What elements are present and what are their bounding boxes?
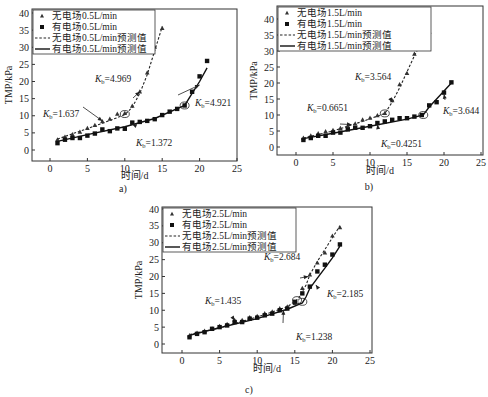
no-field-data-point (160, 26, 165, 30)
kb-annotation-c-2: Kb=1.435 (204, 296, 242, 307)
y-tick-label: 35 (149, 220, 159, 231)
field-data-point (308, 284, 312, 288)
field-data-point (123, 127, 127, 131)
field-data-point (315, 269, 319, 273)
field-data-point (240, 320, 244, 324)
y-tick-label: 40 (19, 8, 29, 19)
y-tick-label: 10 (264, 110, 274, 121)
arrowhead-icon (98, 117, 103, 121)
field-data-point (145, 119, 149, 123)
chart-3: 05101520250510152025303540时间/dTMP/kPac)K… (133, 204, 375, 397)
no-field-data-point (93, 123, 98, 127)
legend-entry: 无电场2.5L/min (182, 208, 247, 219)
x-tick-label: 15 (402, 157, 412, 168)
field-data-point (225, 323, 229, 327)
y-tick-label: 0 (154, 339, 159, 350)
field-data-point (383, 119, 387, 123)
y-tick-label: 0 (269, 142, 274, 153)
legend-entry: 有电场2.5L/min预测值 (182, 241, 277, 252)
field-data-point (278, 308, 282, 312)
x-tick-label: 20 (195, 163, 205, 174)
field-data-point (167, 109, 171, 113)
field-data-point (85, 133, 89, 137)
no-field-data-point (338, 225, 343, 229)
y-tick-label: 25 (264, 62, 274, 73)
field-data-point (375, 121, 379, 125)
field-data-point (346, 127, 350, 131)
field-data-point (190, 90, 194, 94)
x-tick-label: 25 (232, 163, 242, 174)
arrowhead-icon (316, 285, 320, 290)
y-tick-label: 20 (19, 76, 29, 87)
x-tick-label: 15 (157, 163, 167, 174)
field-data-point (368, 124, 372, 128)
y-tick-label: 30 (19, 42, 29, 53)
legend-entry: 有电场1.5L/min预测值 (297, 40, 392, 51)
chart-2: 05101520250510152025303540时间/dTMP/kPab)K… (248, 6, 486, 193)
y-tick-label: 10 (149, 305, 159, 316)
x-tick-label: 0 (48, 163, 53, 174)
y-tick-label: 5 (24, 127, 29, 138)
no-field-data-point (405, 71, 410, 75)
kb-annotation-a-2: Kb=1.637 (42, 109, 80, 120)
legend-square-icon (40, 25, 44, 29)
y-tick-label: 0 (24, 145, 29, 156)
field-data-point (412, 114, 416, 118)
field-data-point (217, 325, 221, 329)
legend-entry: 无电场2.5L/min预测值 (182, 230, 277, 241)
kb-annotation-a-4: Kb=1.372 (135, 138, 173, 149)
no-field-data-point (55, 137, 60, 141)
x-tick-label: 20 (439, 157, 449, 168)
no-field-data-point (308, 272, 313, 276)
x-tick-label: 5 (85, 163, 90, 174)
y-tick-label: 35 (19, 25, 29, 36)
panel-label: a) (119, 183, 127, 195)
legend-entry: 无电场1.5L/min预测值 (297, 29, 392, 40)
field-data-point (323, 134, 327, 138)
y-tick-label: 20 (149, 271, 159, 282)
field-data-point (175, 107, 179, 111)
no-field-data-point (130, 104, 135, 108)
field-data-point (442, 90, 446, 94)
x-axis-label: 时间/d (366, 164, 394, 176)
field-data-point (338, 130, 342, 134)
field-data-point (353, 126, 357, 130)
field-data-point (130, 120, 134, 124)
no-field-data-point (323, 129, 328, 133)
field-data-point (405, 116, 409, 120)
no-field-data-point (115, 111, 120, 115)
field-data-point (449, 80, 453, 84)
kb-annotation-c-1: Kb=2.684 (263, 252, 301, 263)
y-axis-label: TMP/kPa (248, 61, 259, 100)
field-data-point (247, 316, 251, 320)
x-axis-label: 时间/d (253, 362, 281, 374)
field-data-point (55, 141, 59, 145)
arrowhead-icon (443, 94, 447, 99)
field-data-point (270, 311, 274, 315)
field-data-point (100, 127, 104, 131)
y-tick-label: 25 (149, 254, 159, 265)
y-tick-label: 5 (269, 126, 274, 137)
field-data-point (309, 136, 313, 140)
y-axis-label: TMP/kPa (3, 65, 14, 104)
legend-entry: 有电场0.5L/min预测值 (52, 43, 147, 54)
legend: 无电场0.5L/min有电场0.5L/min无电场0.5L/min预测值有电场0… (33, 10, 155, 54)
field-data-point (93, 131, 97, 135)
x-tick-label: 25 (365, 355, 375, 366)
field-data-point (390, 118, 394, 122)
field-data-point (330, 252, 334, 256)
field-data-point (115, 126, 119, 130)
field-data-point (197, 74, 201, 78)
x-tick-label: 25 (476, 157, 486, 168)
field-data-point (182, 103, 186, 107)
field-data-point (420, 113, 424, 117)
panel-label: c) (245, 384, 253, 396)
no-field-data-point (397, 82, 402, 86)
x-tick-label: 20 (327, 355, 337, 366)
y-tick-label: 15 (149, 288, 159, 299)
field-data-point (316, 134, 320, 138)
kb-annotation-c-4: Kb=1.238 (295, 332, 333, 343)
field-data-point (301, 138, 305, 142)
field-data-point (63, 138, 67, 142)
kb-annotation-b-4: Kb=0.4251 (380, 139, 422, 150)
